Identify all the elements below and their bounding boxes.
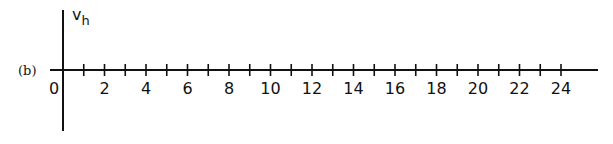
y-axis-label-main: v [72,5,81,24]
x-tick-label: 20 [468,79,488,98]
x-tick-label: 14 [343,79,363,98]
chart: (b) vh 024681012141618202224 [0,0,613,144]
x-tick-label: 0 [49,79,59,98]
x-tick-label: 18 [426,79,446,98]
panel-label: (b) [18,63,36,78]
x-tick-label: 24 [551,79,571,98]
x-tick-label: 10 [260,79,280,98]
x-tick-label: 12 [302,79,322,98]
x-tick-label: 8 [224,79,234,98]
x-tick-label: 4 [141,79,151,98]
x-tick-label: 6 [182,79,192,98]
x-tick-label: 16 [385,79,405,98]
x-tick-label: 2 [99,79,109,98]
x-tick-label: 22 [509,79,529,98]
y-axis-label-subscript: h [81,13,89,28]
x-tick-labels: 024681012141618202224 [49,79,571,98]
y-axis-label: vh [72,5,90,28]
